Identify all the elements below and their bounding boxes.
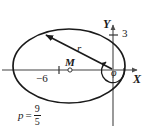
equals-sign: =	[26, 110, 32, 121]
y-tick-label-3: 3	[122, 28, 128, 39]
fraction-denominator: 5	[34, 116, 41, 127]
x-axis-label: X	[133, 73, 141, 85]
fraction: 9 5	[34, 104, 41, 127]
radius-vector-label: r	[77, 43, 81, 54]
parameter-symbol: p	[18, 110, 24, 121]
x-tick-label-minus-6: −6	[36, 73, 48, 84]
center-point-marker	[68, 68, 72, 72]
y-axis-label: Y	[103, 18, 110, 30]
semi-latus-rectum-annotation: p = 9 5	[18, 104, 41, 127]
ellipse-center-label: M	[65, 57, 75, 68]
math-figure-ellipse-polar: Y X 3 −6 M r φ p = 9 5	[0, 0, 153, 135]
fraction-numerator: 9	[34, 104, 41, 115]
polar-angle-label: φ	[111, 68, 117, 78]
